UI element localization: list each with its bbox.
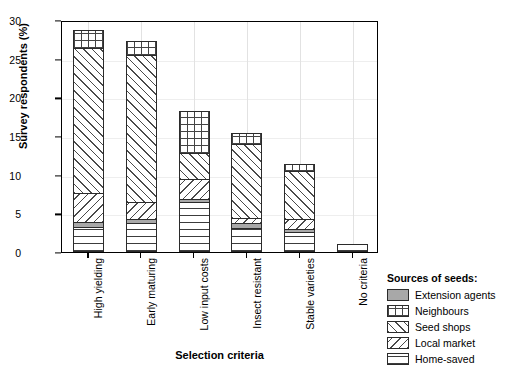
x-tick-label: Early maturing (145, 258, 157, 326)
legend-swatch-icon (387, 321, 409, 333)
x-tick-label: Stable varieties (304, 258, 316, 330)
bar-stack[interactable] (337, 245, 368, 252)
bar-segment[interactable] (126, 55, 157, 204)
y-tick-label: 15 (9, 131, 21, 143)
bar-segment[interactable] (179, 179, 210, 200)
y-tick-label: 30 (9, 15, 21, 27)
gridline-vertical (353, 22, 354, 252)
x-tick-mark (193, 253, 194, 258)
legend-item[interactable]: Extension agents (387, 287, 512, 302)
bar-stack[interactable] (231, 134, 262, 252)
x-tick-mark (87, 253, 88, 258)
x-tick-label: Insect resistant (251, 258, 263, 329)
bar-segment[interactable] (126, 202, 157, 220)
gridline-horizontal (62, 61, 377, 62)
bar-segment[interactable] (284, 219, 315, 230)
gridline-horizontal (62, 99, 377, 100)
legend-label: Local market (415, 337, 475, 349)
gridline-horizontal (62, 138, 377, 139)
legend-items: Extension agentsNeighboursSeed shopsLoca… (387, 287, 512, 366)
chart-figure: Survey respondents (%) 051015202530 N=55… (0, 0, 512, 377)
gridline-horizontal (62, 215, 377, 216)
bar-stack[interactable] (126, 42, 157, 252)
x-tick-mark (352, 253, 353, 258)
bar-segment[interactable] (179, 153, 210, 180)
legend-label: Extension agents (415, 289, 496, 301)
bar-segment[interactable] (179, 202, 210, 252)
bar-segment[interactable] (284, 232, 315, 252)
legend-item[interactable]: Neighbours (387, 303, 512, 318)
legend-label: Neighbours (415, 305, 469, 317)
y-tick-label: 25 (9, 54, 21, 66)
x-tick-label: High yielding (92, 258, 104, 318)
bar-segment[interactable] (284, 171, 315, 221)
bar-segment[interactable] (231, 228, 262, 252)
gridline-horizontal (62, 177, 377, 178)
y-tick-label: 0 (15, 247, 21, 259)
x-axis-title: Selection criteria (61, 349, 378, 361)
legend-swatch-icon (387, 305, 409, 317)
x-tick-mark (299, 253, 300, 258)
y-axis: Survey respondents (%) 051015202530 (0, 0, 61, 270)
legend-item[interactable]: Seed shops (387, 319, 512, 334)
legend-swatch-icon (387, 353, 409, 365)
bar-segment[interactable] (73, 30, 104, 49)
x-tick-label: Low input costs (198, 258, 210, 330)
legend-title: Sources of seeds: (387, 272, 512, 284)
bar-segment[interactable] (126, 41, 157, 56)
y-tick-label: 5 (15, 208, 21, 220)
y-tick-label: 20 (9, 92, 21, 104)
bar-segment[interactable] (179, 111, 210, 154)
bar-stack[interactable] (284, 165, 315, 252)
bar-stack[interactable] (73, 31, 104, 252)
x-tick-mark (246, 253, 247, 258)
bar-segment[interactable] (284, 164, 315, 172)
legend-label: Seed shops (415, 321, 470, 333)
x-tick-mark (140, 253, 141, 258)
legend-label: Home-saved (415, 353, 475, 365)
bar-segment[interactable] (126, 223, 157, 252)
legend-item[interactable]: Local market (387, 335, 512, 350)
legend-swatch-icon (387, 289, 409, 301)
bar-segment[interactable] (231, 133, 262, 146)
x-tick-label: No criteria (357, 258, 369, 306)
bar-segment[interactable] (231, 144, 262, 218)
plot-area (61, 21, 378, 253)
bar-segment[interactable] (73, 193, 104, 223)
bar-stack[interactable] (179, 112, 210, 252)
bar-segment[interactable] (337, 244, 368, 252)
y-tick-label: 10 (9, 170, 21, 182)
bar-segment[interactable] (73, 227, 104, 252)
legend-item[interactable]: Home-saved (387, 351, 512, 366)
legend: Sources of seeds: Extension agentsNeighb… (387, 272, 512, 367)
legend-swatch-icon (387, 337, 409, 349)
bar-segment[interactable] (73, 48, 104, 194)
